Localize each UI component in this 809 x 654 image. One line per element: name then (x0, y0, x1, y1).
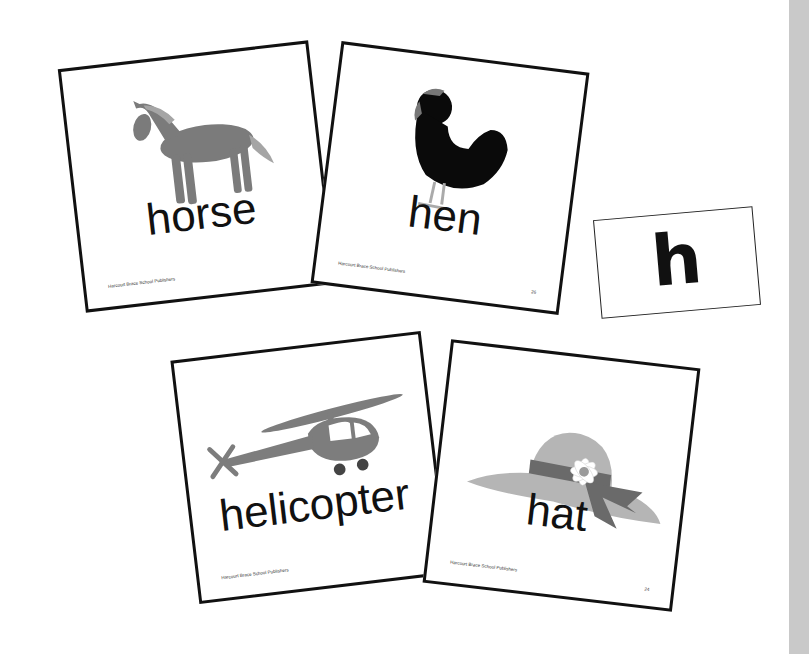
picture-card-helicopter: helicopter Harcourt Brace School Publish… (170, 331, 449, 604)
letter-h: h (595, 213, 759, 306)
page-number: 26 (531, 289, 537, 295)
picture-card-horse: horse Harcourt Brace School Publishers (58, 40, 336, 312)
picture-card-hen: hen Harcourt Brace School Publishers 26 (311, 41, 590, 315)
picture-card-hat: hat Harcourt Brace School Publishers 24 (423, 339, 701, 612)
page-number: 24 (644, 586, 650, 592)
hat-icon (426, 343, 697, 609)
side-strip (789, 0, 809, 654)
letter-card: h (593, 206, 761, 319)
helicopter-icon (174, 334, 447, 600)
horse-icon (61, 44, 333, 310)
